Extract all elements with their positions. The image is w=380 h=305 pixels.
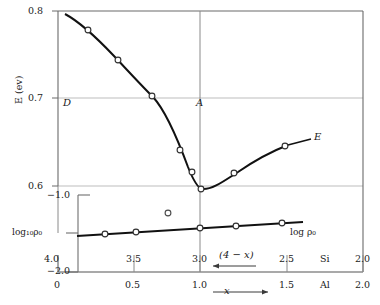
data-point-E	[115, 57, 121, 63]
data-point-log-rho	[233, 223, 239, 229]
data-point-log-rho	[197, 225, 203, 231]
annotation-D: D	[63, 98, 71, 108]
curve-log-rho	[77, 222, 303, 236]
xtick-label-1.0: 1.0	[192, 280, 207, 290]
ytick-label-0.8: 0.8	[28, 6, 43, 16]
curve-E	[65, 14, 288, 189]
xtick-top-label-3.0: 3.0	[192, 254, 207, 264]
data-point-E	[231, 170, 237, 176]
ytick-label-0.7: 0.7	[28, 93, 43, 103]
data-point-E	[282, 143, 288, 149]
data-point-E	[85, 27, 91, 33]
xtick-top-label-3.5: 3.5	[126, 254, 141, 264]
xtick-label-1.5: 1.5	[279, 280, 294, 290]
inner-tick-label-minus1: −1.0	[47, 190, 70, 200]
xtick-label-0.5: 0.5	[125, 280, 140, 290]
inner-axis-label: log₁₀ρ₀	[12, 228, 42, 237]
ytick-label-0.6: 0.6	[28, 181, 43, 191]
xtick-label-0: 0	[54, 280, 60, 290]
arrow-x-head	[262, 289, 268, 294]
data-point-log-rho	[102, 231, 108, 237]
axis-label-y-left: E (ev)	[14, 76, 24, 104]
curve-label-log-rho: log ρ₀	[290, 228, 316, 237]
data-point-E	[198, 186, 204, 192]
figure-canvas: E (ev) 0.8 0.7 0.6 D A E log ρ₀ −1.0 −2.…	[0, 0, 380, 305]
axis-label-4-minus-x: (4 − x)	[219, 250, 254, 260]
element-label-al: Al	[320, 280, 330, 290]
data-point-log-rho	[279, 220, 285, 226]
axis-label-x: x	[224, 286, 230, 296]
xtick-top-label-4.0: 4.0	[44, 254, 59, 264]
data-point-E	[177, 147, 183, 153]
data-point-outlier	[165, 210, 171, 216]
arrow-4minusx-head	[213, 263, 219, 268]
data-point-E	[189, 169, 195, 175]
inner-tick-label-minus2: −2.0	[47, 266, 70, 276]
data-point-E	[149, 93, 155, 99]
curve-E-tail	[288, 139, 311, 145]
xtick-top-label-2.5: 2.5	[279, 254, 294, 264]
annotation-A: A	[196, 98, 203, 108]
data-point-log-rho	[133, 229, 139, 235]
curve-label-E: E	[314, 132, 321, 142]
xtick-label-2.0: 2.0	[355, 280, 370, 290]
element-label-si: Si	[320, 254, 330, 264]
xtick-top-label-2.0: 2.0	[355, 254, 370, 264]
